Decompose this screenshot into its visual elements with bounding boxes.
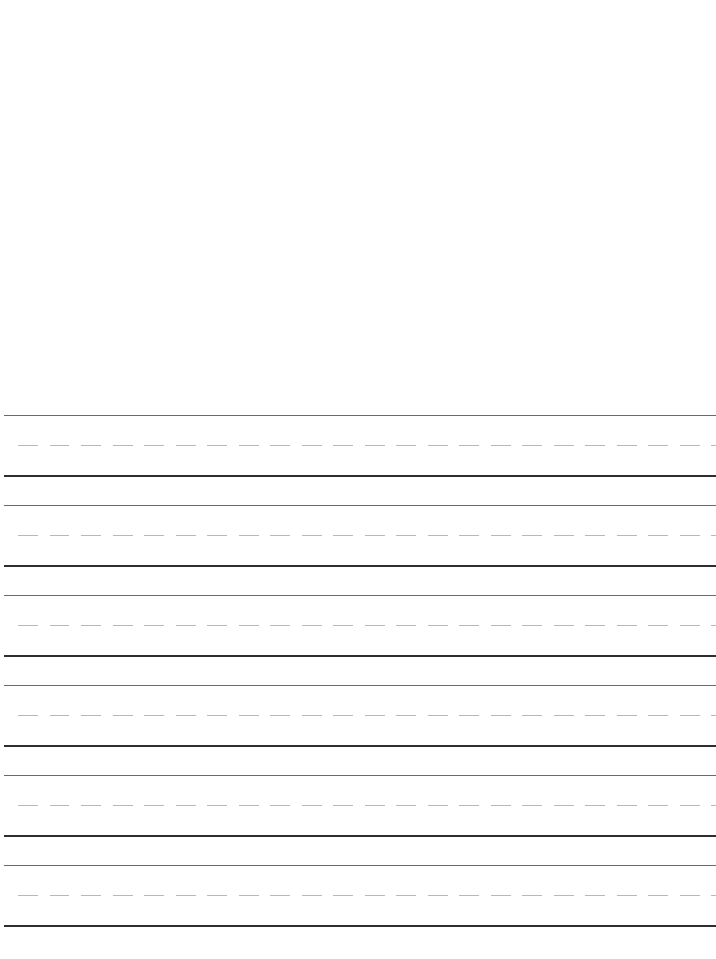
baseline [4, 745, 716, 747]
top-line [4, 595, 716, 596]
top-line [4, 775, 716, 776]
writing-row-4 [0, 685, 716, 747]
writing-row-5 [0, 775, 716, 837]
dashed-midline [18, 535, 716, 536]
practice-sheet [0, 0, 716, 959]
baseline [4, 925, 716, 927]
writing-row-3 [0, 595, 716, 657]
writing-row-2 [0, 505, 716, 567]
dashed-midline [18, 445, 716, 446]
dashed-midline [18, 625, 716, 626]
baseline [4, 655, 716, 657]
top-line [4, 685, 716, 686]
baseline [4, 565, 716, 567]
baseline [4, 835, 716, 837]
writing-row-6 [0, 865, 716, 927]
dashed-midline [18, 715, 716, 716]
baseline [4, 475, 716, 477]
top-line [4, 505, 716, 506]
writing-row-1 [0, 415, 716, 477]
top-line [4, 865, 716, 866]
top-line [4, 415, 716, 416]
dashed-midline [18, 805, 716, 806]
dashed-midline [18, 895, 716, 896]
